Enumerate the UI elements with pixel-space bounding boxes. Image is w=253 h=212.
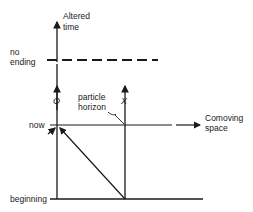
no-ending-label-line1: no — [10, 47, 19, 57]
observer-o-label: O — [53, 96, 60, 106]
spacetime-diagram — [0, 0, 253, 212]
y-axis-label-line1: Altered — [63, 11, 90, 21]
no-ending-label-line2: ending — [10, 57, 36, 67]
y-axis-label-line2: time — [63, 22, 79, 32]
observer-x-label: X — [121, 96, 127, 106]
light-ray — [60, 128, 125, 199]
particle-horizon-label-line2: horizon — [78, 102, 106, 112]
now-label: now — [29, 120, 45, 130]
particle-horizon-label-line1: particle — [78, 92, 105, 102]
x-axis-label-line1: Comoving — [205, 113, 243, 123]
beginning-label: beginning — [10, 194, 47, 204]
x-axis-label-line2: space — [205, 123, 228, 133]
